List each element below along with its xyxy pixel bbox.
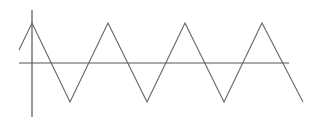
triangle-wave-diagram bbox=[0, 0, 315, 122]
